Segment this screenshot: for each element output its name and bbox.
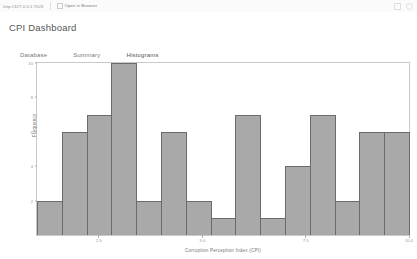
histogram-bar bbox=[310, 115, 336, 235]
histogram-bar bbox=[359, 132, 385, 235]
y-tick-label: 6 bbox=[31, 129, 37, 134]
histogram-bar bbox=[37, 201, 63, 235]
preview-url: http://127.0.0.1:7023 bbox=[3, 4, 44, 9]
plot-area: Frequency 246810 2.55.07.510.0 bbox=[36, 62, 410, 236]
histogram-bar bbox=[211, 218, 237, 235]
histogram-bar bbox=[87, 115, 113, 235]
histogram-bar bbox=[285, 166, 311, 235]
external-link-icon bbox=[57, 3, 63, 9]
histogram-bar bbox=[136, 201, 162, 235]
x-tick-label: 5.0 bbox=[199, 235, 205, 243]
x-tick-label: 7.5 bbox=[303, 235, 309, 243]
histogram-bar bbox=[335, 201, 361, 235]
y-tick-label: 10 bbox=[28, 61, 37, 66]
x-tick-label: 2.5 bbox=[96, 235, 102, 243]
histogram-chart: Frequency 246810 2.55.07.510.0 Corruptio… bbox=[0, 56, 417, 259]
toolbar-actions bbox=[394, 3, 413, 10]
histogram-bar bbox=[186, 201, 212, 235]
histogram-bar bbox=[235, 115, 261, 235]
open-in-browser-button[interactable]: Open in Browser bbox=[57, 3, 98, 9]
bar-series bbox=[37, 63, 409, 235]
histogram-bar bbox=[260, 218, 286, 235]
y-tick-label: 2 bbox=[31, 198, 37, 203]
settings-icon[interactable] bbox=[406, 3, 413, 10]
toolbar-divider bbox=[50, 2, 51, 10]
open-in-browser-label: Open in Browser bbox=[65, 3, 98, 8]
histogram-bar bbox=[161, 132, 187, 235]
y-tick-label: 8 bbox=[31, 95, 37, 100]
histogram-bar bbox=[62, 132, 88, 235]
histogram-bar bbox=[384, 132, 410, 235]
x-axis-label: Corruption Perception Index (CPI) bbox=[36, 248, 410, 253]
histogram-bar bbox=[111, 63, 137, 235]
refresh-icon[interactable] bbox=[394, 3, 401, 10]
y-tick-label: 4 bbox=[31, 164, 37, 169]
x-tick-label: 10.0 bbox=[405, 235, 413, 243]
page-title: CPI Dashboard bbox=[9, 22, 77, 33]
app-page: CPI Dashboard Database Summary Histogram… bbox=[0, 12, 417, 259]
